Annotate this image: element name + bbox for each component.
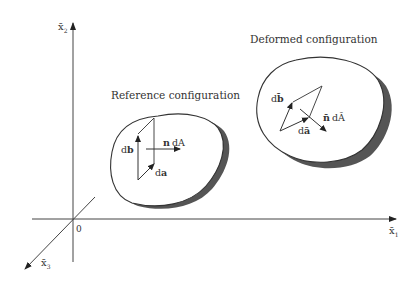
x3-axis-label: x̄3 [41, 257, 51, 270]
deformed-db-label: db̄ [271, 93, 284, 104]
diagram: x̄2 x̄1 x̄3 0 Reference configuration db… [0, 0, 416, 286]
x1-axis-label: x̄1 [389, 225, 398, 238]
x2-axis-label: x̄2 [58, 21, 68, 34]
reference-title: Reference configuration [111, 89, 240, 101]
deformed-normal-label: n̄dĀ [323, 112, 345, 123]
deformed-da-label: dā [298, 125, 310, 136]
reference-body [111, 114, 230, 209]
reference-normal-label: ndA [163, 137, 185, 148]
diagram-canvas: x̄2 x̄1 x̄3 0 Reference configuration db… [0, 0, 416, 286]
origin-label: 0 [76, 224, 82, 234]
reference-db-label: db [121, 144, 134, 155]
reference-da-label: da [155, 167, 167, 178]
x3-axis [25, 197, 95, 269]
deformed-title: Deformed configuration [250, 33, 378, 45]
